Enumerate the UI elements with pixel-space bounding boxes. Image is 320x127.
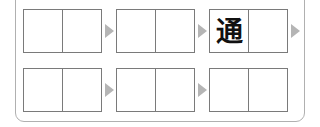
char-cell[interactable] [248,10,287,52]
arrow-right-icon [105,83,114,97]
char-cell[interactable] [117,10,155,52]
word-box-4 [23,68,102,112]
word-box-3: 通 [209,9,288,53]
arrow-right-icon [198,24,207,38]
char-cell[interactable] [155,69,194,111]
char-cell[interactable]: 通 [210,10,248,52]
char-cell[interactable] [24,10,62,52]
char-cell[interactable] [248,69,287,111]
char-cell[interactable] [24,69,62,111]
char-cell[interactable] [62,69,101,111]
word-box-6 [209,68,288,112]
word-box-5 [116,68,195,112]
char-cell[interactable] [117,69,155,111]
char-cell[interactable] [62,10,101,52]
arrow-right-icon [291,24,300,38]
char-cell[interactable] [155,10,194,52]
char-cell[interactable] [210,69,248,111]
arrow-right-icon [198,83,207,97]
arrow-right-icon [105,24,114,38]
word-box-1 [23,9,102,53]
word-box-2 [116,9,195,53]
